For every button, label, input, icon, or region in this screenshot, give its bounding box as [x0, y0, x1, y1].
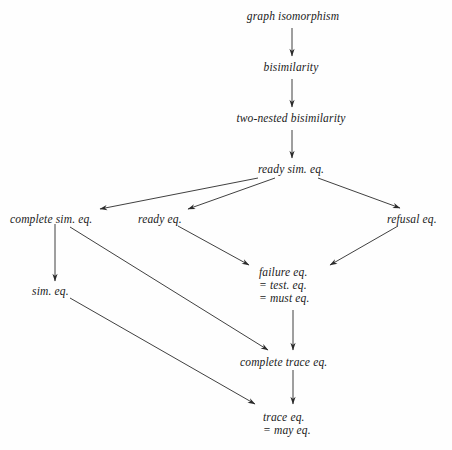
node-bisimilarity: bisimilarity: [264, 61, 319, 74]
node-label: = must eq.: [259, 292, 309, 305]
node-label: trace eq.: [263, 411, 311, 424]
edges-group: [55, 28, 400, 404]
node-label: refusal eq.: [387, 213, 437, 226]
node-label: complete sim. eq.: [10, 213, 92, 226]
node-ready-sim-eq: ready sim. eq.: [258, 163, 324, 176]
node-label: graph isomorphism: [247, 10, 339, 23]
edge-sim-eq-to-trace-eq: [70, 298, 255, 404]
edge-ready-sim-to-refusal-eq: [318, 178, 400, 208]
edge-ready-sim-to-ready-eq: [188, 178, 275, 209]
node-complete-trace-eq: complete trace eq.: [240, 356, 327, 369]
node-label: bisimilarity: [264, 61, 319, 74]
node-ready-eq: ready eq.: [138, 213, 182, 226]
node-label: two-nested bisimilarity: [236, 112, 345, 125]
node-refusal-eq: refusal eq.: [387, 213, 437, 226]
edge-ready-eq-to-failure-eq: [178, 226, 249, 265]
node-trace-eq: trace eq.= may eq.: [263, 411, 311, 437]
edge-ready-sim-to-complete-sim: [100, 178, 258, 209]
edge-refusal-eq-to-failure-eq: [330, 226, 398, 265]
node-label: failure eq.: [259, 266, 309, 279]
node-complete-sim-eq: complete sim. eq.: [10, 213, 92, 226]
node-two-nested-bisimilarity: two-nested bisimilarity: [236, 112, 345, 125]
equivalence-hierarchy-diagram: graph isomorphismbisimilaritytwo-nested …: [0, 0, 452, 450]
node-label: ready sim. eq.: [258, 163, 324, 176]
node-graph-isomorphism: graph isomorphism: [247, 10, 339, 23]
node-label: sim. eq.: [32, 285, 69, 298]
node-sim-eq: sim. eq.: [32, 285, 69, 298]
node-label: ready eq.: [138, 213, 182, 226]
node-label: complete trace eq.: [240, 356, 327, 369]
node-failure-eq: failure eq.= test. eq.= must eq.: [259, 266, 309, 305]
node-label: = test. eq.: [259, 279, 309, 292]
edge-complete-sim-to-complete-trace: [70, 227, 268, 350]
node-label: = may eq.: [263, 424, 311, 437]
